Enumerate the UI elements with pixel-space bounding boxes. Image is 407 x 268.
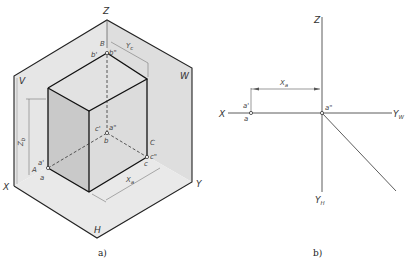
- point-c-dprime-label: c": [150, 153, 157, 161]
- point-b-dprime-label: b": [109, 49, 117, 57]
- point-a-prime-label-b: a': [243, 102, 249, 110]
- axis-z-label-b: Z: [313, 15, 321, 25]
- figure-b-caption: b): [313, 248, 322, 258]
- point-a-prime-label: a': [38, 159, 44, 167]
- axis-x-label: X: [2, 182, 10, 192]
- axis-yw-label: YW: [393, 109, 405, 120]
- figure-b-orthographic: Xa Z X YW YH a' a a" b): [218, 15, 405, 258]
- point-b-label: b: [104, 137, 109, 145]
- axis-y-label: Y: [196, 179, 203, 189]
- plane-v-label: V: [19, 76, 26, 86]
- point-c-label: c: [144, 160, 148, 168]
- diagonal-line: [322, 113, 396, 191]
- point-a-dprime-label-b: a": [325, 104, 333, 112]
- axis-yh-label: YH: [315, 195, 325, 206]
- dim-xa-label-b: Xa: [279, 79, 289, 88]
- figure-a-isometric: Yc Zb Xa Z X Y V W H B b' b" c' a" b C c…: [2, 6, 203, 258]
- point-b-prime-label: b': [91, 51, 97, 59]
- point-a-label-b: a: [244, 115, 248, 123]
- axis-z-label: Z: [102, 6, 110, 16]
- point-a-label: a: [40, 174, 44, 182]
- axis-x-label-b: X: [218, 109, 226, 119]
- point-C-label: C: [150, 139, 155, 147]
- plane-h-label: H: [94, 225, 101, 235]
- figure-a-caption: a): [98, 248, 107, 258]
- projection-figure: Yc Zb Xa Z X Y V W H B b' b" c' a" b C c…: [0, 0, 407, 268]
- point-A-label: A: [31, 166, 37, 174]
- plane-w-label: W: [180, 71, 190, 81]
- point-a-dprime-label: a": [109, 124, 117, 132]
- point-c-prime-label: c': [95, 125, 101, 133]
- point-B-label: B: [100, 40, 105, 48]
